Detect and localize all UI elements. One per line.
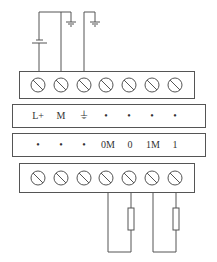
terminal-label-dot: • [96, 110, 116, 122]
ground-icon: ⏚ [74, 110, 94, 122]
screw-terminal[interactable] [145, 171, 159, 185]
wiring-diagram [0, 0, 217, 262]
load-loop-1 [108, 192, 134, 252]
ground-icon [90, 22, 100, 26]
terminal-label-0m: 0M [98, 139, 118, 151]
screw-terminal[interactable] [122, 171, 136, 185]
resistor-icon [128, 208, 134, 230]
terminal-label-dot: • [142, 110, 162, 122]
screw-terminal[interactable] [77, 171, 91, 185]
power-supply-wiring [39, 12, 95, 71]
screw-terminal[interactable] [31, 171, 45, 185]
screw-terminal[interactable] [99, 78, 113, 92]
terminal-label-dot: • [119, 110, 139, 122]
terminal-label-1m: 1M [143, 139, 163, 151]
terminal-label-0: 0 [120, 139, 140, 151]
terminal-label-l-plus: L+ [28, 110, 48, 122]
screw-terminal[interactable] [54, 171, 68, 185]
screw-terminal[interactable] [77, 78, 91, 92]
screw-terminal[interactable] [145, 78, 159, 92]
terminal-label-dot: • [28, 139, 48, 151]
terminal-label-m: M [51, 110, 71, 122]
screw-terminal[interactable] [31, 78, 45, 92]
bottom-screw-terminals [31, 171, 182, 185]
top-screw-terminals [31, 78, 182, 92]
screw-terminal[interactable] [99, 171, 113, 185]
load-loop-2 [153, 192, 179, 252]
terminal-label-dot: • [74, 139, 94, 151]
battery-icon [32, 40, 47, 43]
ground-icon [66, 22, 76, 26]
screw-terminal[interactable] [54, 78, 68, 92]
screw-terminal[interactable] [168, 171, 182, 185]
resistor-icon [173, 208, 179, 230]
terminal-label-1: 1 [165, 139, 185, 151]
terminal-label-dot: • [165, 110, 185, 122]
screw-terminal[interactable] [122, 78, 136, 92]
screw-terminal[interactable] [168, 78, 182, 92]
terminal-label-dot: • [51, 139, 71, 151]
